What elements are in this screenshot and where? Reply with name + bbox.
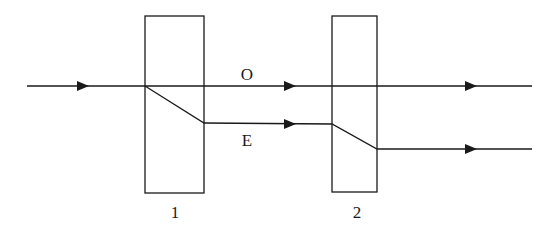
ordinary-ray-label: O bbox=[241, 66, 253, 83]
extraordinary-ray-label: E bbox=[242, 132, 252, 149]
arrow-icon bbox=[465, 144, 477, 154]
arrow-icon bbox=[77, 81, 89, 91]
arrow-icon bbox=[284, 119, 296, 129]
arrow-icon bbox=[284, 81, 296, 91]
plate-1-label: 1 bbox=[171, 204, 180, 221]
optics-diagram bbox=[0, 0, 548, 232]
plate-2-label: 2 bbox=[353, 204, 362, 221]
crystal-plate-2 bbox=[332, 16, 377, 192]
arrow-icon bbox=[465, 81, 477, 91]
extraordinary-ray bbox=[145, 86, 532, 149]
